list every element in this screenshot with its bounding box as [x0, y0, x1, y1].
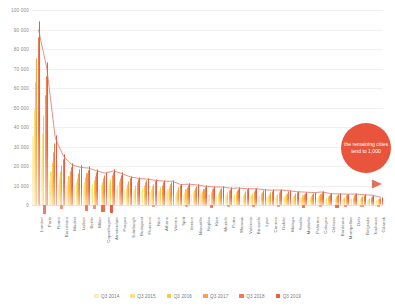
bars-layer — [32, 10, 383, 215]
negative-bar — [93, 205, 96, 209]
bar-group[interactable] — [157, 10, 165, 215]
x-axis-tick-label: Brussels — [256, 217, 261, 234]
negative-bar — [360, 205, 363, 207]
bar-group[interactable] — [274, 10, 282, 215]
x-axis-tick-label: Cologne — [323, 217, 328, 234]
bar-group[interactable] — [65, 10, 73, 215]
bar-group[interactable] — [299, 10, 307, 215]
legend-label: Q3 2018 — [246, 294, 264, 299]
bar-group[interactable] — [49, 10, 57, 215]
x-axis-tick-label: Naples — [206, 217, 211, 231]
y-axis-tick-label: 80 000 — [14, 47, 29, 52]
bar-group[interactable] — [174, 10, 182, 215]
bar-group[interactable] — [283, 10, 291, 215]
x-axis-tick-label: Palermo — [315, 217, 320, 234]
bar-group[interactable] — [141, 10, 149, 215]
legend-swatch — [203, 294, 208, 299]
bar-group[interactable] — [132, 10, 140, 215]
bar-group[interactable] — [350, 10, 358, 215]
bar-group[interactable] — [32, 10, 40, 215]
bar-group[interactable] — [266, 10, 274, 215]
bar-group[interactable] — [74, 10, 82, 215]
bar-group[interactable] — [99, 10, 107, 215]
bar-group[interactable] — [107, 10, 115, 215]
negative-bar — [185, 205, 188, 207]
legend-item[interactable]: Q3 2015 — [130, 294, 155, 299]
bar-group[interactable] — [182, 10, 190, 215]
bar-group[interactable] — [375, 10, 383, 215]
bar-group[interactable] — [366, 10, 374, 215]
x-axis-tick-label: Montpellier — [348, 217, 353, 239]
bar-group[interactable] — [116, 10, 124, 215]
bar-group[interactable] — [333, 10, 341, 215]
bar-group[interactable] — [40, 10, 48, 215]
negative-bar — [335, 205, 338, 208]
x-axis-tick-label: Rome — [56, 217, 61, 229]
bar-group[interactable] — [91, 10, 99, 215]
x-axis-tick-label: Madrid — [72, 217, 77, 231]
bar-group[interactable] — [224, 10, 232, 215]
bar-group[interactable] — [249, 10, 257, 215]
x-axis-tick-label: Budapest — [139, 217, 144, 236]
y-axis-tick-label: 30 000 — [14, 144, 29, 149]
bar-group[interactable] — [216, 10, 224, 215]
bar-group[interactable] — [291, 10, 299, 215]
negative-bar — [85, 205, 88, 211]
x-axis-tick-label: Barcelona — [64, 217, 69, 237]
legend-label: Q3 2019 — [283, 294, 301, 299]
x-axis-tick-label: Kiev — [214, 217, 219, 226]
x-axis-tick-label: Belgrade — [365, 217, 370, 235]
negative-bar — [277, 205, 280, 207]
x-axis-tick-label: Lisbon — [81, 217, 86, 230]
legend-item[interactable]: Q3 2016 — [167, 294, 192, 299]
bar-group[interactable] — [82, 10, 90, 215]
bar-group[interactable] — [308, 10, 316, 215]
legend-item[interactable]: Q3 2017 — [203, 294, 228, 299]
legend-item[interactable]: Q3 2018 — [239, 294, 264, 299]
bar-group[interactable] — [191, 10, 199, 215]
y-axis-tick-label: 20 000 — [14, 164, 29, 169]
bar-group[interactable] — [258, 10, 266, 215]
negative-bar — [110, 205, 113, 212]
x-axis-tick-label: London — [39, 217, 44, 232]
x-axis-tick-label: Split — [181, 217, 186, 226]
legend-swatch — [130, 294, 135, 299]
legend-label: Q3 2014 — [101, 294, 119, 299]
bar-group[interactable] — [166, 10, 174, 215]
bar-group[interactable] — [208, 10, 216, 215]
bar-group[interactable] — [233, 10, 241, 215]
bar-group[interactable] — [199, 10, 207, 215]
bar-group[interactable] — [149, 10, 157, 215]
bar-group[interactable] — [358, 10, 366, 215]
x-axis-labels: LondonParisRomeBarcelonaMadridLisbonBerl… — [32, 217, 383, 285]
x-axis-tick-label: Amsterdam — [114, 217, 119, 240]
chart-legend: Q3 2014Q3 2015Q3 2016Q3 2017Q3 2018Q3 20… — [0, 289, 395, 303]
bar-group[interactable] — [316, 10, 324, 215]
bar-group[interactable] — [341, 10, 349, 215]
x-axis-tick-label: Florence — [147, 217, 152, 235]
legend-item[interactable]: Q3 2014 — [94, 294, 119, 299]
bar-group[interactable] — [241, 10, 249, 215]
x-axis-tick-label: Warsaw — [239, 217, 244, 233]
negative-bar — [252, 205, 255, 207]
bar-group[interactable] — [57, 10, 65, 215]
x-axis-tick-label: Marbella — [306, 217, 311, 234]
negative-bar — [319, 205, 322, 207]
x-axis-tick-label: Prague — [122, 217, 127, 231]
x-axis-tick-label: Lyon — [264, 217, 269, 227]
legend-swatch — [239, 294, 244, 299]
x-axis-tick-label: Milan — [97, 217, 102, 228]
x-axis-tick-label: Toulouse — [373, 217, 378, 235]
bar-group[interactable] — [325, 10, 333, 215]
y-axis-tick-label: 90 000 — [14, 27, 29, 32]
legend-item[interactable]: Q3 2019 — [276, 294, 301, 299]
negative-bar — [344, 205, 347, 207]
y-axis: 100 00090 00080 00070 00060 00050 00040 … — [0, 10, 32, 215]
negative-bar — [43, 205, 46, 214]
x-axis-tick-label: Venice — [189, 217, 194, 231]
chart-container: 100 00090 00080 00070 00060 00050 00040 … — [0, 0, 395, 308]
bar-group[interactable] — [124, 10, 132, 215]
x-axis-tick-label: Cannes — [273, 217, 278, 232]
y-axis-tick-label: 10 000 — [14, 183, 29, 188]
x-axis-tick-label: Valencia — [248, 217, 253, 234]
